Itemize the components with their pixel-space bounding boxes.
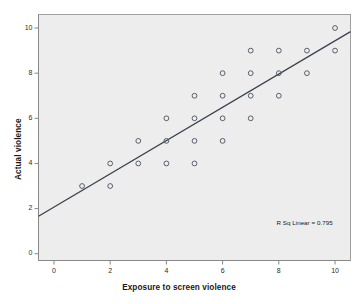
r-squared-annotation: R Sq Linear = 0.795 bbox=[277, 219, 333, 226]
scatter-plot-figure: 0246810 0246810 Exposure to screen viole… bbox=[0, 0, 358, 304]
x-tick-label: 10 bbox=[325, 267, 345, 274]
y-tick-label: 10 bbox=[17, 24, 33, 31]
x-axis-title: Exposure to screen violence bbox=[0, 283, 358, 292]
y-tick-label: 0 bbox=[17, 249, 33, 256]
x-tick-label: 0 bbox=[44, 267, 64, 274]
x-tick-label: 6 bbox=[213, 267, 233, 274]
x-tick-label: 2 bbox=[100, 267, 120, 274]
y-tick-label: 8 bbox=[17, 69, 33, 76]
x-tick-label: 8 bbox=[269, 267, 289, 274]
plot-canvas bbox=[0, 0, 358, 304]
x-tick-label: 4 bbox=[156, 267, 176, 274]
y-tick-label: 2 bbox=[17, 204, 33, 211]
y-axis-title: Actual violence bbox=[14, 118, 23, 180]
